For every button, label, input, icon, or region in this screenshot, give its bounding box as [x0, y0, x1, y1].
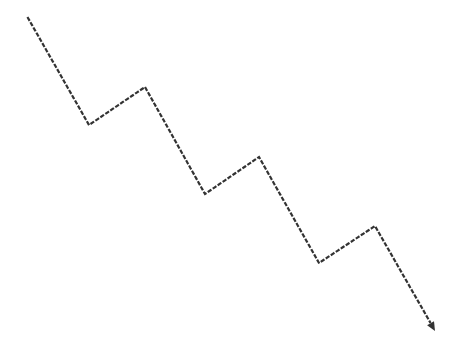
diagram-canvas [0, 0, 456, 347]
dotted-zigzag-line [28, 18, 430, 322]
arrowhead-icon [427, 321, 435, 331]
zigzag-arrow-diagram [0, 0, 456, 347]
